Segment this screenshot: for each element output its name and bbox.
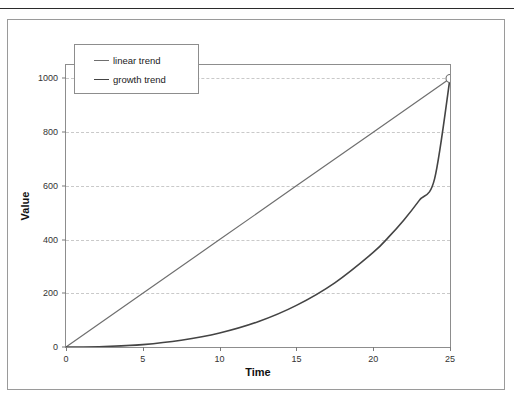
header-rule <box>0 8 514 9</box>
y-tick-label: 200 <box>43 288 58 298</box>
chart-canvas: Value Time 02004006008001000 0510152025 <box>8 20 504 389</box>
x-tick-mark <box>143 347 144 351</box>
legend-item-linear-trend: linear trend <box>75 51 198 70</box>
x-tick-label: 25 <box>445 354 455 364</box>
x-tick-label: 15 <box>291 354 301 364</box>
legend-label-linear-trend: linear trend <box>113 55 161 66</box>
x-tick-label: 5 <box>140 354 145 364</box>
clipped-header-text <box>0 0 514 2</box>
x-tick-mark <box>220 347 221 351</box>
y-tick-label: 0 <box>53 342 58 352</box>
y-tick-label: 1000 <box>38 73 58 83</box>
y-tick-label: 400 <box>43 235 58 245</box>
x-axis-title: Time <box>245 366 270 378</box>
endpoint-marker-icon <box>446 74 450 82</box>
x-tick-mark <box>296 347 297 351</box>
x-tick-label: 0 <box>63 354 68 364</box>
chart-legend: linear trend growth trend <box>74 44 199 94</box>
y-axis-title: Value <box>19 192 31 221</box>
x-tick-mark <box>450 347 451 351</box>
y-tick-label: 800 <box>43 127 58 137</box>
series-layer <box>66 65 450 347</box>
x-tick-mark <box>373 347 374 351</box>
legend-label-growth-trend: growth trend <box>113 74 166 85</box>
plot-area: 02004006008001000 0510152025 linear tren… <box>65 64 451 348</box>
document-page: Value Time 02004006008001000 0510152025 <box>0 0 514 398</box>
legend-item-growth-trend: growth trend <box>75 70 198 89</box>
series-line-linear-trend <box>66 78 450 347</box>
x-tick-label: 10 <box>215 354 225 364</box>
y-tick-label: 600 <box>43 181 58 191</box>
legend-swatch-linear-trend <box>94 60 109 61</box>
legend-swatch-growth-trend <box>94 79 109 80</box>
figure-panel: Value Time 02004006008001000 0510152025 <box>7 19 505 390</box>
x-tick-label: 20 <box>368 354 378 364</box>
x-tick-mark <box>66 347 67 351</box>
